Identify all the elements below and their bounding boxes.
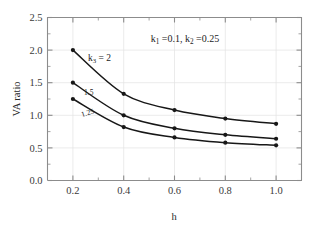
x-tick-label: 1.0 [270,185,283,196]
series-marker-1-1 [122,113,126,117]
series-marker-1-2 [172,126,176,130]
series-marker-1-4 [274,137,278,141]
chart-canvas: 0.00.51.01.52.02.5 0.20.40.60.81.0 h VA … [0,0,333,233]
x-tick-label: 0.4 [117,185,131,196]
y-tick-label: 1.0 [29,110,42,121]
y-tick-label: 0.5 [29,143,42,154]
y-tick-label: 0.0 [29,175,42,186]
series-marker-0-0 [71,48,75,52]
chart-figure: 0.00.51.01.52.02.5 0.20.40.60.81.0 h VA … [0,0,333,233]
series-marker-2-1 [122,125,126,129]
series-marker-0-1 [122,92,126,96]
y-tick-label: 1.5 [29,77,42,88]
series-marker-0-3 [223,116,227,120]
series-marker-1-0 [71,81,75,85]
y-tick-label: 2.5 [29,12,42,23]
x-tick-label: 0.6 [168,185,181,196]
series-label-k3-1p5: 1.5 [84,88,94,97]
x-tick-label: 0.2 [66,185,79,196]
series-marker-0-4 [274,122,278,126]
x-tick-label: 0.8 [219,185,232,196]
y-tick-label: 2.0 [29,45,42,56]
series-label-k3-2: k3 = 2 [88,53,111,64]
parameter-annotation: k1 =0.1, k2 =0.25 [151,33,219,46]
series-marker-2-0 [71,97,75,101]
series-marker-2-2 [172,135,176,139]
series-marker-2-3 [223,141,227,145]
x-axis-title: h [171,211,177,222]
series-marker-2-4 [274,143,278,147]
series-marker-0-2 [172,108,176,112]
y-axis-title: VA ratio [11,81,22,116]
series-marker-1-3 [223,133,227,137]
